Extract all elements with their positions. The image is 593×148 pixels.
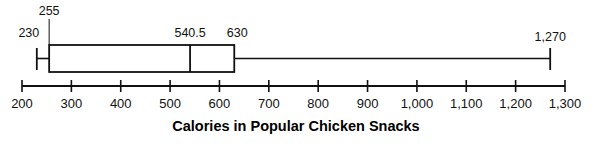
interquartile-box [49,45,234,72]
axis-tick-label-400: 400 [110,96,132,111]
q3-value-label: 630 [227,26,248,40]
axis-tick-labels: 2003004005006007008009001,0001,1001,2001… [11,96,581,111]
axis-tick-label-500: 500 [159,96,181,111]
box-plot-figure: 255 230 540.5 630 1,270 2003004005006007… [0,0,593,148]
axis-tick-label-700: 700 [258,96,280,111]
min-value-label: 230 [18,26,39,40]
axis-tick-label-1000: 1,000 [401,96,434,111]
axis-tick-label-1100: 1,100 [450,96,483,111]
axis-tick-label-300: 300 [61,96,83,111]
axis-tick-label-1300: 1,300 [549,96,582,111]
median-value-label: 540.5 [174,26,205,40]
axis-tick-label-800: 800 [307,96,329,111]
box-plot-geometry [37,45,550,72]
q1-value-label: 255 [39,4,60,18]
axis-title: Calories in Popular Chicken Snacks [172,118,419,134]
axis-tick-label-900: 900 [357,96,379,111]
axis-tick-label-600: 600 [209,96,231,111]
number-line-axis: 2003004005006007008009001,0001,1001,2001… [11,80,581,111]
box-plot-canvas: 255 230 540.5 630 1,270 2003004005006007… [0,0,593,148]
axis-tick-label-1200: 1,200 [499,96,532,111]
axis-tick-label-200: 200 [11,96,33,111]
max-value-label: 1,270 [535,30,566,44]
